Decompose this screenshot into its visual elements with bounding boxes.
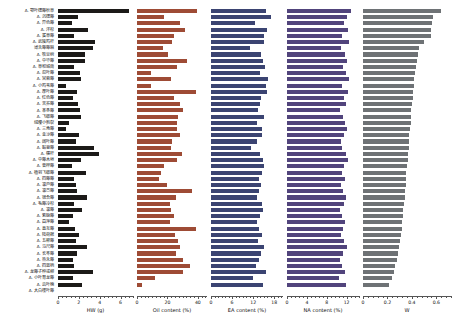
bar-ea [211,34,264,38]
bar-na [287,84,342,88]
bar-na [287,90,348,94]
bar-hw [58,34,74,38]
bar-w [363,34,431,38]
bar-ea [211,28,267,32]
bar-hw [58,202,74,206]
bar-oil [137,283,142,287]
bar-ea [211,208,263,212]
bar-oil [137,15,164,19]
bar-w [363,214,403,218]
axis-minor-tick [373,296,374,298]
axis-minor-tick [368,296,369,298]
bar-na [287,276,339,280]
bar-oil [137,214,174,218]
bar-ea [211,233,262,237]
bar-oil [137,121,177,125]
bar-ea [211,152,260,156]
bar-na [287,233,341,237]
bar-na [287,189,343,193]
bar-row [363,282,451,288]
axis-major-tick [232,296,233,299]
bar-w [363,28,431,32]
axis-minor-tick [264,296,265,298]
axis-minor-tick [271,296,272,298]
bar-ea [211,139,257,143]
axis-minor-tick [125,296,126,298]
axis-major-tick [436,296,437,299]
bar-w [363,59,417,63]
bar-ea [211,90,267,94]
axis-minor-tick [133,296,134,298]
axis-minor-tick [323,296,324,298]
bar-w [363,158,408,162]
bar-hw [58,258,73,262]
bar-na [287,264,342,268]
axis-major-tick [253,296,254,299]
bar-ea [211,21,255,25]
bar-hw [58,152,99,156]
axis-minor-tick [129,296,130,298]
bar-hw [58,270,93,274]
axis-minor-tick [417,296,418,298]
bar-w [363,171,406,175]
axis-minor-tick [96,296,97,298]
bar-w [363,127,410,131]
axis-minor-tick [319,296,320,298]
axis-minor-tick [446,296,447,298]
axis-major-tick [412,296,413,299]
axis-minor-tick [402,296,403,298]
category-label: A. 大白楼叶藤 [0,288,56,294]
axis-major-tick [274,296,275,299]
bar-oil [137,183,167,187]
bar-hw [58,28,88,32]
axis-minor-tick [351,296,352,298]
bar-ea [211,77,268,81]
axis-minor-tick [239,296,240,298]
axis-major-tick [137,296,138,299]
axis-major-tick [121,296,122,299]
bar-na [287,183,341,187]
bar-ea [211,251,261,255]
axis-major-tick [347,296,348,299]
bar-na [287,65,343,69]
bar-hw [58,158,81,162]
bar-w [363,276,392,280]
bar-na [287,96,344,100]
bar-oil [137,71,151,75]
axis-minor-tick [451,296,452,298]
bar-ea [211,52,261,56]
bar-ea [211,65,265,69]
axis-tick-label: 12 [344,300,350,305]
bar-ea [211,158,263,162]
axis-minor-tick [295,296,296,298]
bar-na [287,239,344,243]
axis-minor-tick [427,296,428,298]
axis-minor-tick [75,296,76,298]
bar-na [287,133,344,137]
bar-ea [211,264,256,268]
bar-w [363,77,414,81]
plot-area-hw [58,8,133,288]
bar-oil [137,40,172,44]
axis-minor-tick [112,296,113,298]
bar-oil [137,276,155,280]
axis-major-tick [363,296,364,299]
axis-minor-tick [62,296,63,298]
bar-ea [211,121,257,125]
axis-minor-tick [194,296,195,298]
bar-ea [211,9,266,13]
bar-w [363,96,413,100]
bar-oil [137,90,196,94]
axis-minor-tick [335,296,336,298]
axis-title-oil: Oil content (%) [137,307,207,313]
bar-ea [211,202,262,206]
bar-hw [58,9,129,13]
axis-minor-tick [66,296,67,298]
bar-na [287,220,345,224]
bar-oil [137,171,161,175]
axis-minor-tick [303,296,304,298]
axis-minor-tick [257,296,258,298]
bar-ea [211,115,264,119]
bar-hw [58,164,72,168]
bar-hw [58,171,86,175]
